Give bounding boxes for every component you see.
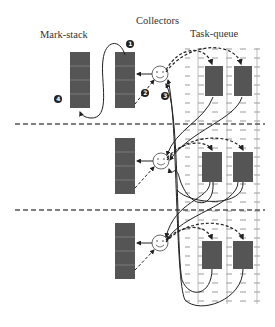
marker-2: 2 — [141, 89, 149, 97]
marker-1: 1 — [126, 40, 134, 48]
svg-text:3: 3 — [163, 92, 167, 99]
mark-stack-label: Mark-stack — [40, 29, 89, 40]
task-queue-block — [205, 66, 223, 96]
collector-smiley-icon — [153, 153, 169, 169]
collectors-label: Collectors — [136, 15, 179, 26]
task-queue-block — [234, 66, 252, 96]
collectors-diagram: Mark-stack Collectors Task-queue — [0, 0, 275, 327]
svg-text:1: 1 — [128, 40, 132, 47]
task-queue-label: Task-queue — [190, 28, 239, 39]
collector-smiley-icon — [152, 235, 168, 251]
svg-text:4: 4 — [56, 95, 60, 102]
svg-text:2: 2 — [143, 89, 147, 96]
mark-stack — [115, 138, 135, 194]
task-queue-block — [233, 152, 253, 182]
marker-3: 3 — [161, 92, 169, 100]
task-queue-block — [202, 241, 222, 269]
collector-smiley-icon — [152, 66, 168, 82]
task-queue-block — [233, 241, 253, 269]
task-queue-block — [202, 152, 222, 182]
mark-stack-extra — [70, 52, 90, 108]
mark-stack — [115, 223, 135, 279]
mark-stack — [115, 52, 135, 108]
marker-4: 4 — [54, 95, 62, 103]
